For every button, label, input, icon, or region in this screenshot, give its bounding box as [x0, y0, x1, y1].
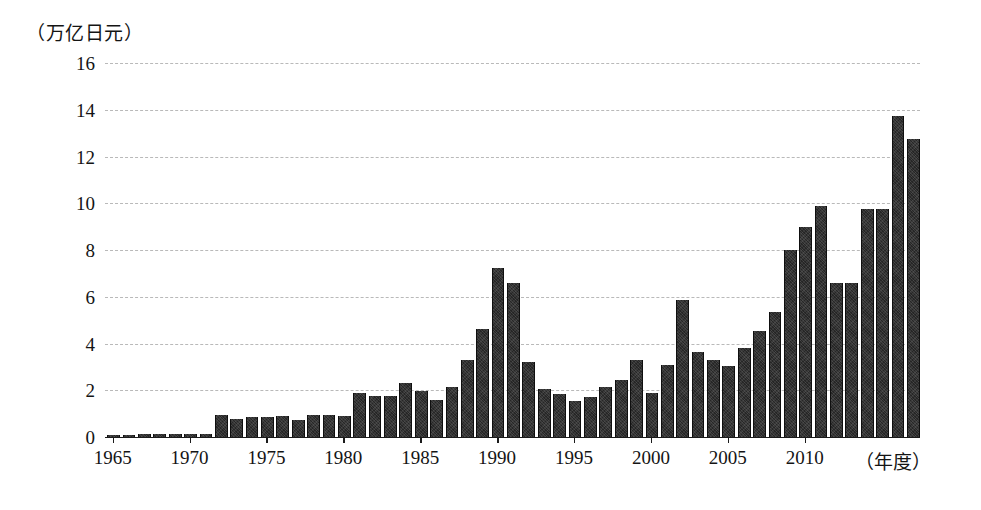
x-tick-mark	[343, 437, 344, 443]
bar	[492, 268, 505, 437]
bar	[861, 209, 874, 437]
x-tick-label: 1990	[478, 447, 516, 469]
bar	[415, 391, 428, 437]
bar	[307, 415, 320, 437]
x-tick-label: 1985	[401, 447, 439, 469]
bar	[599, 387, 612, 437]
x-tick-mark	[574, 437, 575, 443]
bar	[446, 387, 459, 437]
x-tick-label: 2005	[709, 447, 747, 469]
bar	[676, 300, 689, 437]
bar	[799, 227, 812, 437]
bar	[692, 352, 705, 437]
x-tick-mark	[497, 437, 498, 443]
bar	[276, 416, 289, 437]
x-tick-mark	[113, 437, 114, 443]
bar	[353, 393, 366, 437]
bar	[615, 380, 628, 437]
x-tick-mark	[266, 437, 267, 443]
bar	[584, 397, 597, 437]
bar	[646, 393, 659, 437]
x-tick-label: 1965	[94, 447, 132, 469]
x-tick-mark	[651, 437, 652, 443]
bar	[246, 417, 259, 437]
bar	[323, 415, 336, 437]
x-tick-mark	[805, 437, 806, 443]
bar	[338, 416, 351, 437]
x-tick-label: 1980	[324, 447, 362, 469]
y-tick-label: 2	[49, 381, 95, 400]
bar	[630, 360, 643, 437]
x-tick-label: 1975	[247, 447, 285, 469]
bar	[569, 401, 582, 437]
y-tick-label: 14	[49, 100, 95, 119]
bar	[815, 206, 828, 437]
bar	[845, 283, 858, 437]
bar	[261, 417, 274, 437]
bar	[507, 283, 520, 437]
bar-chart: （万亿日元） 0246810121416 （年度） 19651970197519…	[0, 0, 981, 510]
x-tick-label: 1995	[555, 447, 593, 469]
x-axis-ticks	[105, 437, 920, 444]
bar	[522, 362, 535, 437]
y-axis-tick-labels: 0246810121416	[43, 63, 95, 437]
y-tick-label: 4	[49, 334, 95, 353]
bar	[430, 400, 443, 437]
plot-area	[105, 63, 920, 437]
bar	[553, 394, 566, 437]
bar	[738, 348, 751, 437]
y-axis-unit-caption: （万亿日元）	[26, 18, 143, 45]
bar	[892, 116, 905, 437]
y-tick-label: 8	[49, 241, 95, 260]
bar	[661, 365, 674, 437]
bar	[215, 415, 228, 437]
x-tick-mark	[190, 437, 191, 443]
bar	[784, 250, 797, 437]
y-tick-label: 0	[49, 428, 95, 447]
y-tick-label: 6	[49, 287, 95, 306]
bar	[399, 383, 412, 437]
y-tick-label: 10	[49, 194, 95, 213]
bar	[369, 396, 382, 437]
bar	[292, 420, 305, 437]
bar	[830, 283, 843, 437]
bar	[230, 419, 243, 437]
bar	[707, 360, 720, 437]
x-tick-mark	[728, 437, 729, 443]
y-tick-label: 12	[49, 147, 95, 166]
bar	[753, 331, 766, 437]
x-axis-tick-labels: （年度） 19651970197519801985199019952000200…	[0, 447, 981, 481]
y-tick-label: 16	[49, 54, 95, 73]
x-axis-unit-caption: （年度）	[855, 447, 931, 474]
bar	[538, 389, 551, 437]
x-tick-label: 2010	[786, 447, 824, 469]
bar	[769, 312, 782, 437]
bar	[722, 366, 735, 437]
x-tick-label: 2000	[632, 447, 670, 469]
bars-layer	[105, 63, 920, 437]
bar	[384, 396, 397, 437]
bar	[476, 329, 489, 437]
x-tick-mark	[420, 437, 421, 443]
x-tick-label: 1970	[171, 447, 209, 469]
bar	[907, 139, 920, 437]
bar	[461, 360, 474, 437]
bar	[876, 209, 889, 437]
